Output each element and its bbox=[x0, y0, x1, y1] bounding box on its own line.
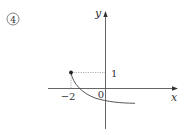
problem-number: 4 bbox=[10, 15, 16, 25]
tick-label-y1: 1 bbox=[111, 68, 117, 79]
endpoint-dot bbox=[69, 71, 73, 75]
y-axis-label: y bbox=[94, 7, 102, 20]
origin-label: 0 bbox=[98, 89, 104, 100]
y-axis-arrow-icon bbox=[103, 11, 107, 17]
x-axis-label: x bbox=[171, 91, 178, 104]
tick-label-x-minus2: −2 bbox=[61, 91, 76, 102]
graph-canvas: 4 x y 1 −2 0 bbox=[0, 0, 187, 135]
